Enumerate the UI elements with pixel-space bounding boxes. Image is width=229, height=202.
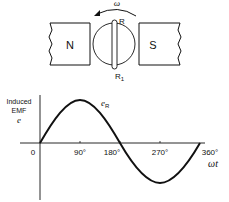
conductor-bottom-label: R1 — [115, 72, 125, 82]
x-tick-label-360: 360° — [202, 148, 219, 157]
south-magnet — [139, 23, 181, 65]
x-tick-label-180: 180° — [104, 148, 121, 157]
conductor-rod — [112, 20, 117, 69]
y-axis-label-line3: e — [17, 115, 21, 125]
generator-schematic: N S ω R R1 — [49, 0, 181, 82]
rotation-arrowhead-icon — [94, 10, 100, 16]
rotation-label: ω — [114, 0, 120, 8]
x-tick-label-0: 0 — [31, 148, 36, 157]
emf-chart: Induced EMF e 0 90° 180° 270° 360° ωt eR — [7, 95, 219, 200]
emf-sine-curve — [40, 100, 200, 183]
north-pole-label: N — [66, 39, 74, 51]
rotation-arc — [97, 9, 136, 16]
y-axis-label-line1: Induced — [7, 98, 32, 105]
south-pole-label: S — [149, 39, 156, 51]
x-tick-label-90: 90° — [74, 148, 86, 157]
series-label: eR — [101, 98, 110, 109]
x-axis-label: ωt — [208, 158, 218, 169]
y-axis-label-line2: EMF — [12, 107, 27, 114]
conductor-top-label: R — [119, 17, 125, 26]
diagram-canvas: N S ω R R1 Induced EMF e 0 90° 180° — [0, 0, 229, 202]
x-tick-label-270: 270° — [152, 148, 169, 157]
